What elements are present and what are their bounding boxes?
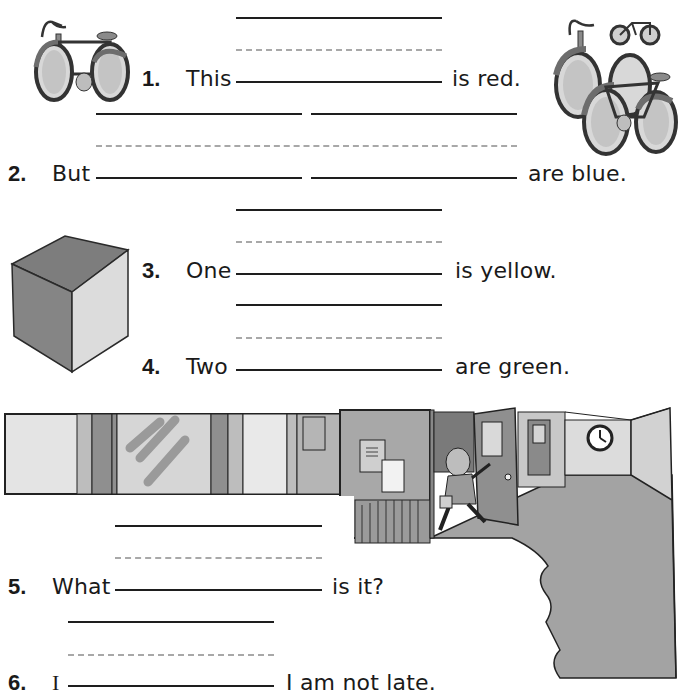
item2-answer-blank-b[interactable] [311, 177, 517, 179]
item5-text-before: What [52, 574, 111, 600]
item6-guide-line [68, 654, 274, 656]
item4-writing-top-line [236, 304, 442, 306]
item2-guide-line [96, 145, 517, 147]
item6-text-after: I am not late. [286, 670, 436, 696]
item6-writing-top-line [68, 621, 274, 623]
item4-answer-blank[interactable] [236, 369, 442, 371]
item3-writing-top-line [236, 209, 442, 211]
item3-guide-line [236, 241, 442, 243]
item4-number: 4. [142, 354, 160, 380]
item6-number: 6. [8, 670, 26, 696]
cube-illustration [10, 236, 140, 366]
item1-text-before: This [186, 66, 232, 92]
item4-text-before: Two [186, 354, 228, 380]
item6-answer-blank[interactable] [68, 685, 274, 687]
item5-number: 5. [8, 574, 26, 600]
item3-text-before: One [186, 258, 231, 284]
item2-answer-blank-a[interactable] [96, 177, 302, 179]
item5-answer-blank[interactable] [115, 589, 322, 591]
item5-guide-line [115, 557, 322, 559]
item2-writing-top-line-b [311, 113, 517, 115]
item1-writing-top-line [236, 17, 442, 19]
item2-number: 2. [8, 161, 26, 187]
item3-answer-blank[interactable] [236, 273, 442, 275]
item4-text-after: are green. [455, 354, 570, 380]
item6-text-before: I [52, 670, 60, 696]
item4-guide-line [236, 337, 442, 339]
item2-writing-top-line-a [96, 113, 302, 115]
item1-guide-line [236, 49, 442, 51]
school-hallway-illustration [0, 400, 682, 690]
item1-answer-blank[interactable] [236, 81, 442, 83]
item1-text-after: is red. [452, 66, 521, 92]
bicycle-illustration [22, 12, 132, 107]
bicycles-group-illustration [540, 5, 682, 160]
wall-clock-icon [588, 426, 612, 450]
item1-number: 1. [142, 66, 160, 92]
item2-text-after: are blue. [528, 161, 627, 187]
item5-writing-top-line [115, 525, 322, 527]
item5-text-after: is it? [332, 574, 384, 600]
item3-number: 3. [142, 258, 160, 284]
item2-text-before: But [52, 161, 90, 187]
item3-text-after: is yellow. [455, 258, 557, 284]
